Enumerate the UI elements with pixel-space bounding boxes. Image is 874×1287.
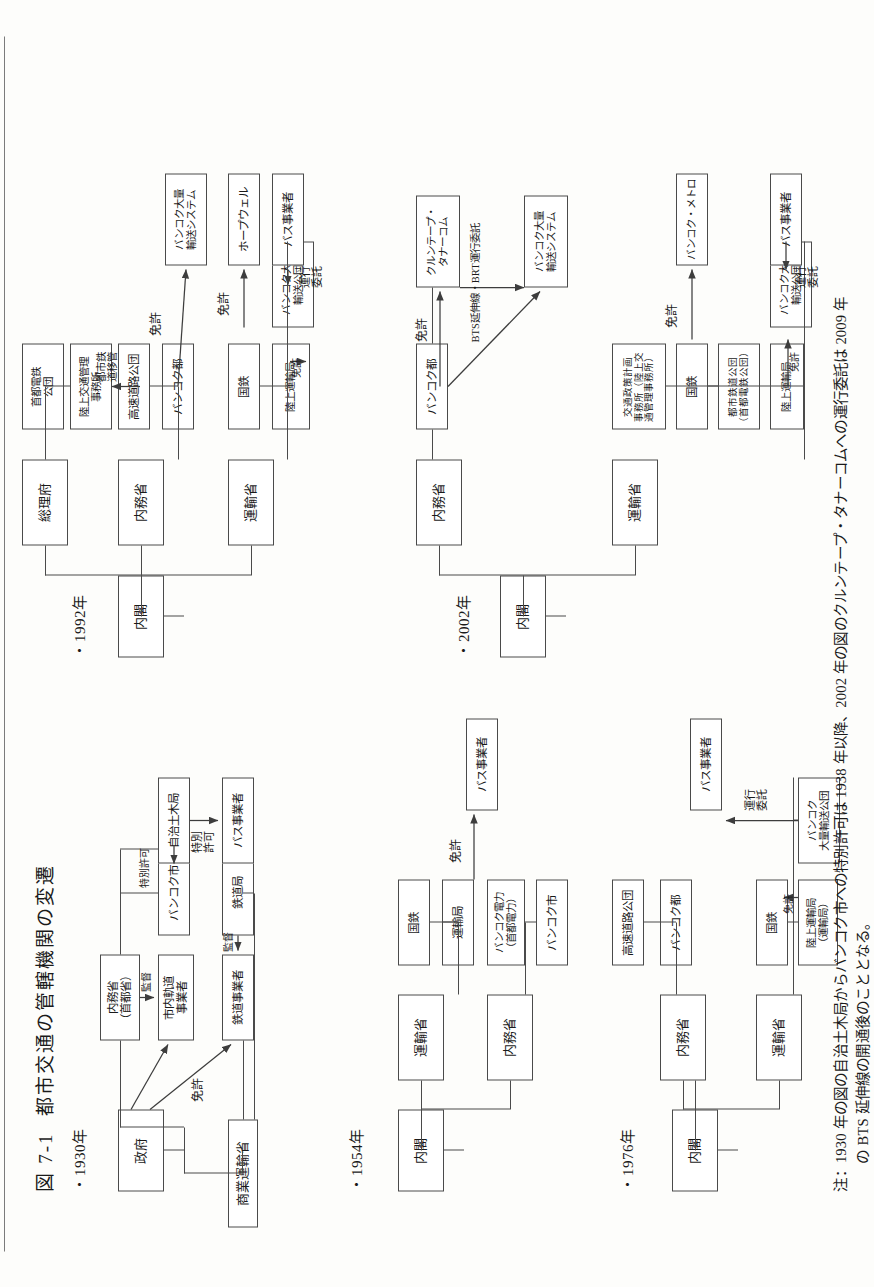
ann-1992-license-bangkok: 免許 xyxy=(150,311,163,335)
line-2002-to-ura xyxy=(708,385,718,386)
ann-1976-license: 免許 xyxy=(784,893,795,913)
box-1954-bangkok-electric: バンコク電力 （首都電力） xyxy=(487,879,525,965)
arrow-1930-gov-to-tram xyxy=(131,1044,168,1109)
line-1930-to-interior xyxy=(120,1040,121,1127)
box-2002-bangkok-metro-admin: バンコク都 xyxy=(416,343,448,429)
box-2002-transport-ministry: 運輸省 xyxy=(612,459,658,545)
line-1992-interior-span xyxy=(178,386,179,459)
box-1976-interior-ministry: 内務省 xyxy=(660,994,706,1080)
line-1976-interior-span xyxy=(676,922,677,994)
year-label-1930: ・1930年 xyxy=(68,1128,89,1191)
line-1976-cab-h xyxy=(695,1080,696,1150)
line-1976-transport-span xyxy=(793,777,794,994)
line-1992-cab-transport xyxy=(251,545,252,575)
line-2002-transport-rail-v xyxy=(666,385,804,386)
line-1954-to-bureau xyxy=(442,921,458,922)
box-1954-bangkok-city: バンコク市 xyxy=(536,879,568,965)
line-1954-cab-transport xyxy=(421,1080,422,1150)
line-1992-cab-pmo xyxy=(45,545,46,575)
ann-1992-operation-entrust: 運行 委託 xyxy=(300,265,323,287)
line-1976-to-ltb xyxy=(793,921,798,922)
line-1930-gov-stem xyxy=(164,1149,184,1150)
box-1930-railway-operator: 鉄道事業者 xyxy=(222,954,254,1040)
ann-1992-license-hopewell: 免許 xyxy=(218,291,231,315)
box-1976-expressway-authority: 高速道路公団 xyxy=(612,879,644,965)
ann-1992-license-bmta: 免許 xyxy=(292,357,303,377)
ann-2002-license-bmts: 免許 xyxy=(416,317,429,341)
ann-2002-license-metro: 免許 xyxy=(666,303,679,327)
box-1930-interior-ministry: 内務省 （首都省） xyxy=(100,954,140,1040)
line-1992-cab-interior xyxy=(141,545,142,616)
box-1930-bus-operator: バス事業者 xyxy=(222,777,254,863)
box-1954-transport-ministry: 運輸省 xyxy=(398,994,444,1080)
line-1930-interior-span xyxy=(120,849,121,954)
ann-1954-license: 免許 xyxy=(450,838,463,862)
line-1954-cab-vert xyxy=(421,1108,510,1109)
line-2002-cab-interior xyxy=(439,545,440,575)
year-label-1976: ・1976年 xyxy=(616,1128,637,1191)
box-1992-bus-operator: バス事業者 xyxy=(272,173,304,265)
box-2002-traffic-policy-office: 交通政策計画 事務所（陸上交 通管理事務所） xyxy=(612,343,666,429)
box-1992-bangkok-mass-transit-system: バンコク大量 輸送システム xyxy=(165,173,207,265)
line-1992-cab-v xyxy=(45,574,251,575)
ann-2002-license-bmta: 免許 xyxy=(790,351,801,371)
box-1976-national-railway: 国鉄 xyxy=(756,879,788,965)
ann-1930-license: 免許 xyxy=(192,1077,205,1101)
line-1954-cabinet-stem xyxy=(444,1149,464,1150)
box-1992-hopewell: ホープウェル xyxy=(228,173,260,265)
ann-1930-special-permit-bus: 特別 許可 xyxy=(192,830,215,852)
ann-1930-special-permit-city: 特別許可 xyxy=(140,847,151,887)
line-1954-to-bkkcity xyxy=(525,921,536,922)
box-1930-city-tram-operator: 市内軌道 事業者 xyxy=(158,954,194,1040)
box-1954-national-railway: 国鉄 xyxy=(398,879,430,965)
line-2002-cab-transport xyxy=(635,545,636,575)
line-2002-cab-h xyxy=(523,575,524,616)
line-1976-to-expressway xyxy=(644,921,676,922)
page-title: 都市交通の管轄機関の変遷 xyxy=(30,863,57,1115)
line-1930-gov-right xyxy=(120,1126,184,1127)
line-1930-commerce-bottom xyxy=(254,893,255,1119)
line-1930-railbureau-stem xyxy=(243,892,254,893)
year-label-1992: ・1992年 xyxy=(68,594,89,657)
box-1992-prime-minister-office: 総理府 xyxy=(22,459,68,545)
line-1930-commerce-to-rail xyxy=(243,1040,244,1119)
year-label-2002: ・2002年 xyxy=(452,594,473,657)
line-1976-cab-transport xyxy=(779,1080,780,1109)
arrow-2002-bangkok-to-bmts xyxy=(448,291,540,386)
line-1954-transport-span xyxy=(458,922,459,994)
line-1976-cab-interior xyxy=(683,1080,684,1109)
line-2002-cab-stem xyxy=(546,615,566,616)
box-2002-interior-ministry: 内務省 xyxy=(416,459,462,545)
ann-2002-bts-brt-entrust: BTS延伸線・BRT運行委託 xyxy=(470,223,481,342)
line-1992-transport-span xyxy=(287,241,288,459)
note-line-2: の BTS 延伸線の開通後のこととなる。 xyxy=(852,23,874,1163)
box-1992-transport-ministry: 運輸省 xyxy=(228,459,274,545)
box-1930-government: 政府 xyxy=(118,1109,164,1191)
line-1954-interior-span xyxy=(525,922,526,994)
page-top-rule xyxy=(4,36,5,1251)
box-1954-interior-ministry: 内務省 xyxy=(487,994,533,1080)
line-2002-bkk-to-ktt xyxy=(432,287,433,343)
ann-1930-supervise-rail: 監督 xyxy=(224,931,235,951)
line-2002-interior-bkk xyxy=(432,429,433,459)
year-label-1954: ・1954年 xyxy=(345,1128,366,1191)
box-1992-national-railway: 国鉄 xyxy=(228,343,260,429)
note-line-1: 注：1930 年の図の自治土木局からバンコク市への特別許可は 1938 年以降、… xyxy=(830,31,852,1191)
line-1976-cab-v xyxy=(683,1108,779,1109)
ann-1992-urban-rail-transfer: 都市鉄 道移管 xyxy=(96,351,118,381)
box-1992-interior-ministry: 内務省 xyxy=(118,459,164,545)
line-1930-interior-to-city xyxy=(120,892,158,893)
box-1954-bus-operator: バス事業者 xyxy=(466,718,498,810)
line-2002-cab-v xyxy=(439,574,635,575)
line-1954-cab-interior xyxy=(510,1080,511,1109)
box-1976-transport-ministry: 運輸省 xyxy=(756,994,802,1080)
ann-1930-supervise-tram: 監督 xyxy=(142,971,153,991)
line-1992-to-jnr xyxy=(260,385,287,386)
line-1930-gov-bus xyxy=(184,1127,185,1173)
box-2002-bus-operator: バス事業者 xyxy=(770,173,802,265)
ann-2002-operation-entrust: 運行 委託 xyxy=(796,265,819,287)
line-1930-to-commerce xyxy=(242,1151,243,1173)
line-1992-pmo-to-lto xyxy=(45,385,70,386)
box-2002-bangkok-mass-transit-system: バンコク大量 輸送システム xyxy=(524,195,568,287)
